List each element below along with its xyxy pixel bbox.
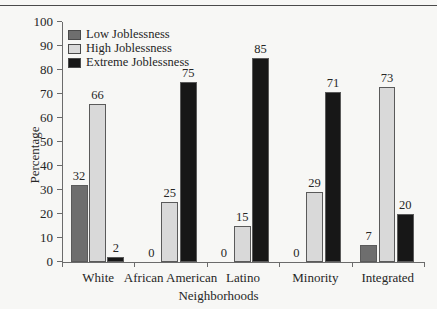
bar-value-label: 71 [327,76,340,91]
legend-label: Low Joblessness [86,27,170,42]
bar[interactable]: 7 [360,245,377,262]
x-axis-tick [279,262,280,267]
bar[interactable]: 71 [325,92,342,262]
y-axis-tick-label: 10 [40,230,53,246]
y-axis-tick-label: 70 [40,86,53,102]
legend-item: Extreme Joblessness [68,56,189,69]
caption-divider-rule [0,5,437,6]
legend-label: High Joblessness [86,41,172,56]
legend-swatch-icon [68,30,81,40]
bar[interactable]: 29 [306,192,323,262]
y-axis-tick-label: 100 [34,14,54,30]
legend-item: Low Joblessness [68,28,189,41]
y-axis-tick-label: 20 [40,206,53,222]
y-axis-tick-label: 30 [40,182,53,198]
bar-value-label: 32 [73,169,86,184]
x-axis-category-label: White [82,270,114,286]
bar[interactable]: 32 [71,185,88,262]
bar-value-label: 66 [91,88,104,103]
x-axis-tick [424,262,425,267]
x-axis-tick [207,262,208,267]
bar-value-label: 20 [399,198,412,213]
bar[interactable]: 66 [89,104,106,262]
bar-value-label: 0 [148,246,154,261]
x-axis-tick [62,262,63,267]
bar-value-label: 29 [308,176,321,191]
figure-container: Percentage Neighborhoods 010203040506070… [0,0,437,309]
bar[interactable]: 2 [107,257,124,262]
y-axis-tick-label: 60 [40,110,53,126]
x-axis-category-label: African American [124,270,217,286]
bar-value-label: 85 [254,42,267,57]
chart-legend: Low JoblessnessHigh JoblessnessExtreme J… [68,28,189,69]
x-axis-label: Neighborhoods [0,288,437,304]
x-axis-category-label: Latino [226,270,260,286]
bar[interactable]: 15 [234,226,251,262]
y-axis-tick-label: 80 [40,62,53,78]
bar-group: 02971Minority [279,22,351,262]
bar-value-label: 25 [164,186,177,201]
bar-value-label: 15 [236,210,249,225]
legend-swatch-icon [68,58,81,68]
bar[interactable]: 25 [161,202,178,262]
x-axis-tick [352,262,353,267]
bar-value-label: 0 [293,246,299,261]
legend-item: High Joblessness [68,42,189,55]
bar[interactable]: 75 [180,82,197,262]
y-axis-tick-label: 0 [47,254,54,270]
bar-value-label: 73 [381,71,394,86]
x-axis-category-label: Integrated [361,270,414,286]
bar[interactable]: 85 [252,58,269,262]
y-axis-tick-label: 50 [40,134,53,150]
bar-value-label: 0 [221,246,227,261]
caption-remnant [0,0,437,3]
bar-group: 77320Integrated [352,22,424,262]
bar-value-label: 7 [366,229,372,244]
legend-swatch-icon [68,44,81,54]
y-axis-tick-label: 90 [40,38,53,54]
x-axis-tick [134,262,135,267]
x-axis-line [62,262,425,263]
bar[interactable]: 20 [397,214,414,262]
y-axis-tick-label: 40 [40,158,53,174]
bar-value-label: 2 [113,241,119,256]
bar-group: 01585Latino [207,22,279,262]
x-axis-category-label: Minority [292,270,338,286]
bar[interactable]: 73 [379,87,396,262]
legend-label: Extreme Joblessness [86,55,189,70]
